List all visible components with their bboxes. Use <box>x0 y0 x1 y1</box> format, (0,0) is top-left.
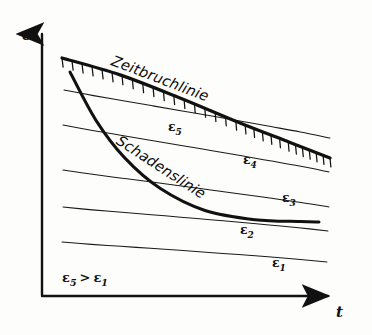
strain-symbol: ε <box>282 190 290 205</box>
strain-symbol: ε <box>243 152 251 167</box>
strain-line-eps2 <box>63 207 328 231</box>
x-axis-label: t <box>336 303 343 321</box>
strain-symbol: ε <box>240 222 248 237</box>
relation-operator: > <box>80 270 91 285</box>
zeitbruchlinie-hatching <box>62 58 331 167</box>
strain-subscript: 4 <box>251 160 257 170</box>
strain-label-eps2: ε2 <box>240 222 254 240</box>
creep-damage-diagram: σ t Zeitbruchlinie Schadenslinie ε5ε4ε3ε… <box>0 0 372 335</box>
y-axis-label: σ <box>22 26 33 44</box>
strain-line-eps1 <box>62 242 327 262</box>
strain-line-group <box>62 90 330 262</box>
strain-symbol: ε <box>168 119 176 134</box>
strain-label-eps1: ε1 <box>272 255 286 273</box>
strain-symbol: ε <box>272 255 280 270</box>
diagram-canvas <box>0 0 372 335</box>
strain-label-eps4: ε4 <box>243 152 257 170</box>
relation-left-sub: 5 <box>70 277 77 288</box>
strain-subscript: 2 <box>248 230 254 240</box>
relation-left-symbol: ε <box>62 270 70 285</box>
zeitbruchlinie-group <box>62 58 331 167</box>
relation-right-sub: 1 <box>101 277 108 288</box>
strain-label-eps5: ε5 <box>168 119 182 137</box>
strain-subscript: 1 <box>280 263 286 273</box>
strain-label-eps3: ε3 <box>282 190 296 208</box>
strain-subscript: 3 <box>290 198 296 208</box>
strain-relation-annotation: ε5>ε1 <box>62 270 108 288</box>
strain-subscript: 5 <box>176 127 182 137</box>
